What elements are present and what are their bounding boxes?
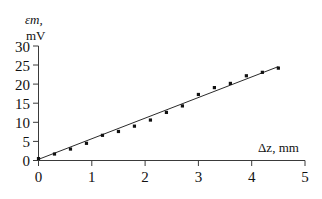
data-point xyxy=(277,67,280,70)
data-point xyxy=(261,71,264,74)
data-point xyxy=(149,118,152,121)
x-tick-label-4: 4 xyxy=(248,169,256,185)
data-point xyxy=(165,111,168,114)
data-point xyxy=(101,134,104,137)
y-tick-label-5: 5 xyxy=(23,134,31,150)
x-tick-label-1: 1 xyxy=(88,169,96,185)
fit-line-group xyxy=(39,67,279,160)
x-tick-marks xyxy=(39,161,306,167)
x-tick-label-0: 0 xyxy=(35,169,43,185)
y-tick-label-20: 20 xyxy=(15,77,30,93)
y-axis-units-label: mV xyxy=(26,28,46,43)
x-axis-title: Δz, mm xyxy=(258,140,299,155)
data-point xyxy=(53,152,56,155)
y-tick-marks xyxy=(33,46,39,161)
data-point xyxy=(197,93,200,96)
x-tick-label-2: 2 xyxy=(141,169,149,185)
data-point xyxy=(85,142,88,145)
data-point xyxy=(213,86,216,89)
linear-fit-line xyxy=(39,67,279,160)
y-tick-labels: 0 5 10 15 20 25 30 xyxy=(15,39,30,170)
data-point xyxy=(245,74,248,77)
data-point xyxy=(69,147,72,150)
data-point xyxy=(37,157,40,160)
data-point xyxy=(229,82,232,85)
y-tick-label-0: 0 xyxy=(23,153,31,169)
y-tick-label-10: 10 xyxy=(15,115,30,131)
x-tick-label-5: 5 xyxy=(301,169,309,185)
y-tick-label-15: 15 xyxy=(15,96,30,112)
y-tick-label-25: 25 xyxy=(15,58,30,74)
chart-figure: 0 5 10 15 20 25 30 0 1 2 3 4 5 εm, mV Δz… xyxy=(0,0,322,199)
scatter-plot-svg: 0 5 10 15 20 25 30 0 1 2 3 4 5 εm, mV Δz… xyxy=(0,0,322,199)
x-tick-label-3: 3 xyxy=(195,169,203,185)
data-point xyxy=(133,125,136,128)
data-point xyxy=(181,104,184,107)
data-point xyxy=(117,130,120,133)
x-tick-labels: 0 1 2 3 4 5 xyxy=(35,169,309,185)
y-axis-title: εm, xyxy=(25,12,43,27)
